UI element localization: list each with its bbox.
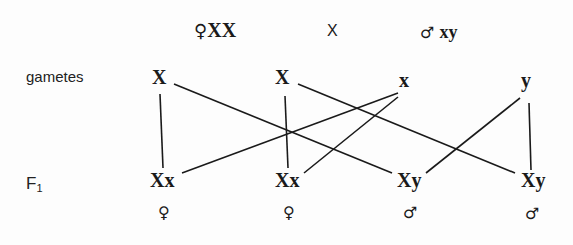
- male-icon: ♂: [403, 203, 417, 222]
- female-icon: ♀: [283, 203, 295, 222]
- offspring-0: Xx: [150, 169, 174, 192]
- male-icon: ♂: [525, 204, 539, 223]
- line-X1-Xx1: [160, 94, 163, 168]
- line-x-Xx2: [304, 97, 398, 173]
- line-X2-Xx2: [285, 96, 288, 168]
- f1-subscript: 1: [36, 182, 42, 194]
- f1-label: F1: [26, 174, 43, 194]
- offspring-2: Xy: [397, 169, 421, 192]
- offspring-3: Xy: [521, 169, 545, 192]
- line-y-Xy2: [529, 103, 531, 170]
- female-genotype: XX: [207, 19, 236, 41]
- offspring-1: Xx: [275, 169, 299, 192]
- male-symbol-icon: ♂: [420, 23, 434, 42]
- female-icon: ♀: [158, 203, 170, 222]
- male-genotype: xy: [439, 22, 457, 42]
- line-y-Xy1: [426, 98, 520, 173]
- line-x-Xx1: [182, 93, 398, 173]
- male-parent: ♂ xy: [420, 22, 457, 43]
- female-symbol-icon: ♀: [194, 20, 207, 41]
- gamete-3: y: [521, 69, 531, 92]
- gametes-label: gametes: [26, 68, 84, 85]
- cross-symbol: X: [327, 22, 338, 40]
- f1-letter: F: [26, 174, 36, 193]
- gamete-0: X: [152, 66, 166, 89]
- gamete-1: X: [275, 66, 289, 89]
- female-parent: ♀XX: [194, 19, 236, 42]
- gamete-2: x: [399, 69, 409, 92]
